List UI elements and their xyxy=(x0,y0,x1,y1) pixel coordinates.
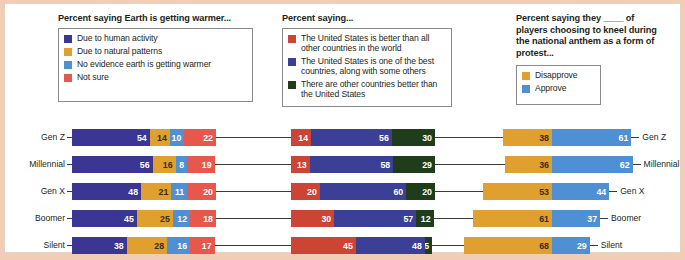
bar-segment[interactable]: 8 xyxy=(176,156,188,173)
row-label-right: Silent xyxy=(601,237,663,254)
chart-page: Percent saying Earth is getting warmer..… xyxy=(0,0,685,260)
row-label-left: Gen X xyxy=(13,183,65,200)
chart-panel: Percent saying Earth is getting warmer..… xyxy=(5,4,680,252)
connector-line xyxy=(435,191,483,192)
bar-segment[interactable]: 10 xyxy=(170,129,184,146)
bar-group: 145630 xyxy=(291,129,435,146)
bar-segment[interactable]: 48 xyxy=(72,183,141,200)
connector-line xyxy=(216,191,291,192)
row-tick-right xyxy=(631,137,639,138)
bar-segment[interactable]: 29 xyxy=(393,156,435,173)
bar-segment[interactable]: 20 xyxy=(291,183,320,200)
bar-segment[interactable]: 14 xyxy=(150,129,170,146)
row-tick-right xyxy=(590,245,598,246)
bar-segment[interactable]: 45 xyxy=(291,237,356,254)
row-label-right: Gen Z xyxy=(642,129,685,146)
connector-line xyxy=(215,164,291,165)
bar-segment[interactable]: 12 xyxy=(416,210,433,227)
bar-segment[interactable]: 57 xyxy=(334,210,416,227)
bar-segment[interactable]: 62 xyxy=(552,156,633,173)
bar-segment[interactable]: 30 xyxy=(291,210,334,227)
bar-segment[interactable]: 68 xyxy=(464,237,552,254)
bar-group: 38281617 xyxy=(72,237,215,254)
bar-segment[interactable]: 29 xyxy=(552,237,590,254)
bar-segment[interactable]: 36 xyxy=(505,156,552,173)
bar-segment[interactable]: 20 xyxy=(406,183,435,200)
chart-row: Gen X482111202060205344Gen X xyxy=(5,183,680,200)
bar-group: 6137 xyxy=(473,210,600,227)
bar-segment[interactable]: 38 xyxy=(503,129,552,146)
chart-row: Boomer452512183057126137Boomer xyxy=(5,210,680,227)
bar-segment[interactable]: 22 xyxy=(184,129,216,146)
row-label-right: Boomer xyxy=(611,210,673,227)
bar-segment[interactable]: 61 xyxy=(473,210,552,227)
row-label-right: Gen X xyxy=(620,183,682,200)
connector-line xyxy=(435,137,503,138)
bar-segment[interactable]: 54 xyxy=(72,129,150,146)
connector-line xyxy=(215,245,291,246)
chart-rows: Gen Z541410221456303861Gen ZMillennial56… xyxy=(5,4,680,252)
connector-line xyxy=(216,137,291,138)
bar-group: 5344 xyxy=(483,183,609,200)
row-label-left: Gen Z xyxy=(13,129,65,146)
bar-segment[interactable]: 53 xyxy=(483,183,552,200)
row-tick-right xyxy=(600,218,608,219)
connector-line xyxy=(216,218,291,219)
bar-segment[interactable]: 60 xyxy=(320,183,406,200)
bar-segment[interactable]: 17 xyxy=(190,237,214,254)
bar-segment[interactable]: 21 xyxy=(141,183,171,200)
bar-segment[interactable]: 56 xyxy=(72,156,153,173)
connector-line xyxy=(435,164,505,165)
bar-segment[interactable]: 16 xyxy=(167,237,190,254)
bar-segment[interactable]: 45 xyxy=(72,210,137,227)
bar-segment[interactable]: 44 xyxy=(552,183,609,200)
bar-group: 135829 xyxy=(291,156,435,173)
bar-segment[interactable]: 48 xyxy=(356,237,425,254)
bar-group: 206020 xyxy=(291,183,435,200)
bar-segment[interactable]: 30 xyxy=(392,129,435,146)
connector-line xyxy=(434,218,473,219)
bar-segment[interactable]: 25 xyxy=(137,210,173,227)
chart-row: Millennial56168191358293662Millennial xyxy=(5,156,680,173)
bar-segment[interactable]: 12 xyxy=(173,210,190,227)
bar-segment[interactable]: 18 xyxy=(190,210,216,227)
bar-group: 48211120 xyxy=(72,183,216,200)
connector-line xyxy=(432,245,463,246)
chart-row: Silent38281617454856829Silent xyxy=(5,237,680,254)
bar-segment[interactable]: 5 xyxy=(425,237,432,254)
bar-segment[interactable]: 11 xyxy=(171,183,187,200)
bar-group: 3861 xyxy=(503,129,632,146)
bar-segment[interactable]: 61 xyxy=(552,129,631,146)
row-label-left: Silent xyxy=(13,237,65,254)
bar-group: 45485 xyxy=(291,237,432,254)
bar-segment[interactable]: 37 xyxy=(552,210,600,227)
bar-group: 54141022 xyxy=(72,129,216,146)
row-tick-right xyxy=(633,164,641,165)
bar-segment[interactable]: 38 xyxy=(72,237,127,254)
bar-segment[interactable]: 58 xyxy=(310,156,394,173)
row-tick-right xyxy=(609,191,617,192)
bar-group: 305712 xyxy=(291,210,434,227)
bar-group: 3662 xyxy=(505,156,632,173)
row-label-left: Millennial xyxy=(13,156,65,173)
bar-group: 5616819 xyxy=(72,156,215,173)
bar-group: 6829 xyxy=(464,237,590,254)
bar-segment[interactable]: 56 xyxy=(311,129,392,146)
bar-segment[interactable]: 19 xyxy=(187,156,214,173)
bar-group: 45251218 xyxy=(72,210,216,227)
bar-segment[interactable]: 13 xyxy=(291,156,310,173)
row-label-right: Millennial xyxy=(644,156,685,173)
row-label-left: Boomer xyxy=(13,210,65,227)
bar-segment[interactable]: 28 xyxy=(127,237,167,254)
chart-row: Gen Z541410221456303861Gen Z xyxy=(5,129,680,146)
bar-segment[interactable]: 16 xyxy=(153,156,176,173)
bar-segment[interactable]: 14 xyxy=(291,129,311,146)
bar-segment[interactable]: 20 xyxy=(187,183,216,200)
